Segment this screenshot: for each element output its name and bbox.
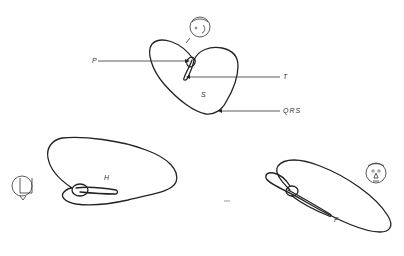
- head-top-view-icon: [12, 176, 32, 200]
- head-profile-icon: [186, 17, 210, 43]
- frontal-plane-label: F: [334, 216, 339, 223]
- horizontal-plane-label: H: [104, 174, 110, 181]
- t-wave-label: T: [283, 73, 288, 80]
- horizontal-loop: [48, 138, 177, 205]
- p-wave-label: P: [92, 57, 98, 64]
- face-front-icon: [366, 163, 386, 183]
- sagittal-plane-label: S: [201, 91, 207, 98]
- smudge: [224, 200, 230, 202]
- vectorcardiogram-figure: [0, 0, 404, 256]
- qrs-label: QRS: [283, 107, 301, 114]
